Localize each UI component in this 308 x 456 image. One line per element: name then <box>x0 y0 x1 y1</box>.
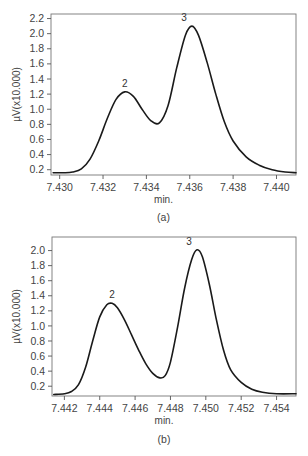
y-tick-label: 1.0 <box>30 320 45 332</box>
peak-labels: 23 <box>109 236 192 301</box>
peak-label-2: 2 <box>122 78 128 89</box>
y-tick-label: 1.6 <box>29 57 44 69</box>
x-tick-label: 7.442 <box>51 402 77 414</box>
y-tick-label: 1.8 <box>29 42 44 54</box>
y-tick-label: 0.6 <box>30 350 45 362</box>
y-tick-label: 1.2 <box>29 88 44 100</box>
peak-label-3: 3 <box>181 12 187 23</box>
y-tick-label: 0.6 <box>29 133 44 145</box>
chart-panel-a: 2.22.01.81.61.41.21.00.80.60.40.2 7.4307… <box>11 12 297 223</box>
x-tick-label: 7.440 <box>263 181 289 193</box>
peak-label-3: 3 <box>186 236 192 247</box>
x-tick-label: 7.454 <box>263 402 289 414</box>
x-tick-label: 7.452 <box>228 402 254 414</box>
plot-frame <box>51 14 296 175</box>
x-tick-label: 7.446 <box>122 402 148 414</box>
chart-panel-b: 2.01.81.61.41.21.00.80.60.40.2 7.4427.44… <box>11 236 297 445</box>
y-tick-label: 1.6 <box>30 274 45 286</box>
x-tick-label: 7.430 <box>47 181 73 193</box>
y-axis: 2.22.01.81.61.41.21.00.80.60.40.2 <box>29 12 51 175</box>
x-tick-label: 7.444 <box>87 402 113 414</box>
panel-caption: (b) <box>158 433 171 445</box>
plot-frame <box>52 237 296 396</box>
panel-caption: (a) <box>157 211 170 223</box>
x-tick-label: 7.436 <box>177 181 203 193</box>
x-tick-label: 7.434 <box>133 181 159 193</box>
y-axis-label: µV(x10.000) <box>11 67 22 122</box>
x-tick-label: 7.448 <box>157 402 183 414</box>
signal-curve <box>53 26 296 173</box>
x-axis: 7.4307.4327.4347.4367.4387.440 <box>47 175 290 193</box>
x-tick-label: 7.438 <box>220 181 246 193</box>
peak-label-2: 2 <box>109 289 115 300</box>
peak-labels: 23 <box>122 12 187 89</box>
y-tick-label: 0.4 <box>30 365 45 377</box>
y-tick-label: 0.2 <box>29 163 44 175</box>
y-tick-label: 0.8 <box>29 118 44 130</box>
y-tick-label: 1.0 <box>29 103 44 115</box>
y-tick-label: 0.8 <box>30 335 45 347</box>
y-tick-label: 2.2 <box>29 12 44 24</box>
y-tick-label: 0.4 <box>29 148 44 160</box>
x-axis-label: min. <box>155 415 174 426</box>
y-tick-label: 1.2 <box>30 304 45 316</box>
y-tick-label: 0.2 <box>30 380 45 392</box>
y-tick-label: 1.4 <box>29 73 44 85</box>
x-axis-label: min. <box>154 194 173 205</box>
y-axis-label: µV(x10.000) <box>11 289 22 344</box>
y-tick-label: 2.0 <box>29 27 44 39</box>
signal-curve <box>54 250 296 395</box>
y-tick-label: 1.4 <box>30 289 45 301</box>
y-tick-label: 2.0 <box>30 244 45 256</box>
x-tick-label: 7.432 <box>90 181 116 193</box>
y-axis: 2.01.81.61.41.21.00.80.60.40.2 <box>30 244 52 392</box>
chromatogram-figure: 2.22.01.81.61.41.21.00.80.60.40.2 7.4307… <box>0 0 308 456</box>
y-tick-label: 1.8 <box>30 259 45 271</box>
x-axis: 7.4427.4447.4467.4487.4507.4527.454 <box>51 396 290 414</box>
x-tick-label: 7.450 <box>193 402 219 414</box>
